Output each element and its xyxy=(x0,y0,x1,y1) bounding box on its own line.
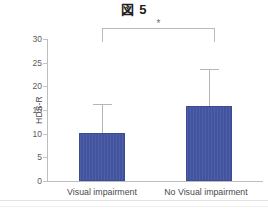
page-divider-top xyxy=(0,200,268,201)
significance-star: * xyxy=(102,20,215,28)
significance-bracket-right-arm xyxy=(214,28,215,42)
bar-hatch xyxy=(80,134,124,180)
y-tick-label: 10 xyxy=(33,129,42,138)
bar-visual-impairment[interactable] xyxy=(79,133,125,181)
y-tick-mark xyxy=(43,181,47,182)
y-tick-label: 25 xyxy=(33,58,42,67)
y-tick-label: 30 xyxy=(33,35,42,44)
error-bar-cap xyxy=(200,69,219,70)
error-bar-stem xyxy=(102,104,103,132)
y-tick-label: 0 xyxy=(37,177,42,186)
error-bar-cap xyxy=(93,104,112,105)
y-tick-mark xyxy=(43,134,47,135)
y-tick-mark xyxy=(43,63,47,64)
x-label-no-visual-impairment: No Visual impairment xyxy=(141,186,268,198)
bar-no-visual-impairment[interactable] xyxy=(186,106,232,181)
figure-container: 図 5 HDS-R 30 25 20 15 10 5 xyxy=(0,0,268,209)
y-tick-label: 15 xyxy=(33,106,42,115)
page-divider-bottom xyxy=(0,206,268,207)
significance-bracket-left-arm xyxy=(102,28,103,42)
y-tick-label: 5 xyxy=(37,153,42,162)
x-axis-line xyxy=(47,181,263,182)
significance-bracket xyxy=(102,28,215,42)
bar-hatch xyxy=(187,107,231,180)
y-tick-mark xyxy=(43,157,47,158)
y-tick-mark xyxy=(43,110,47,111)
y-tick-label: 20 xyxy=(33,82,42,91)
chart-title: 図 5 xyxy=(0,1,268,19)
y-tick-mark xyxy=(43,39,47,40)
error-bar-stem xyxy=(209,69,210,106)
y-tick-mark xyxy=(43,86,47,87)
plot-area: HDS-R 30 25 20 15 10 5 0 xyxy=(47,39,262,181)
